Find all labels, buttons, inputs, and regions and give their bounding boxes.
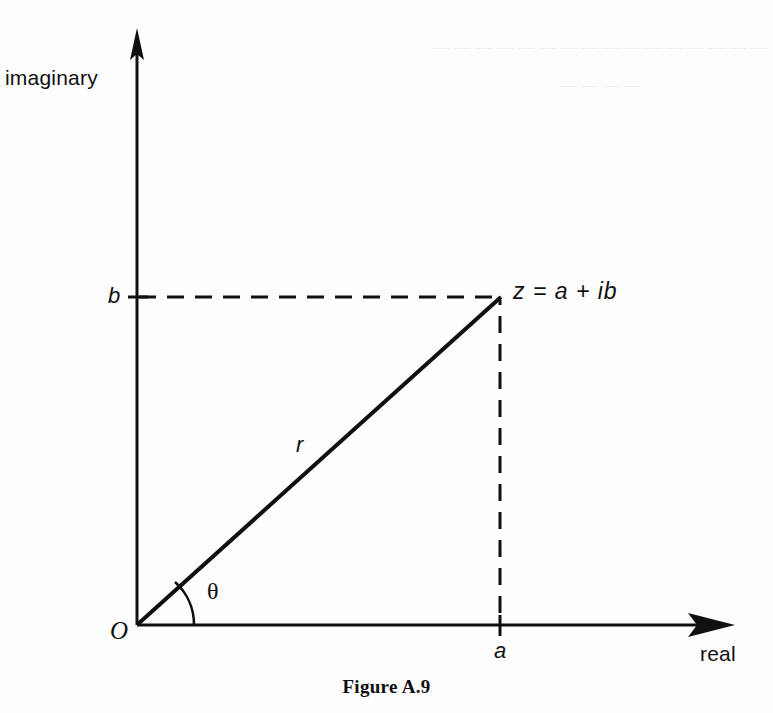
- angle-label: θ: [207, 578, 219, 605]
- point-label: z = a + ib: [513, 278, 618, 305]
- imaginary-axis-label: imaginary: [5, 66, 98, 90]
- imag-part-label: b: [108, 283, 120, 309]
- origin-label: O: [110, 617, 128, 645]
- figure-page: — — — — — — — — — — — — — — — — — — — — …: [0, 0, 773, 713]
- real-axis-label: real: [700, 642, 736, 666]
- argand-diagram: [0, 0, 773, 713]
- real-axis: [137, 613, 735, 637]
- figure-caption: Figure A.9: [0, 676, 773, 698]
- imaginary-axis: [130, 28, 144, 625]
- modulus-line: [138, 297, 501, 624]
- real-part-label: a: [494, 638, 506, 664]
- modulus-label: r: [296, 432, 303, 458]
